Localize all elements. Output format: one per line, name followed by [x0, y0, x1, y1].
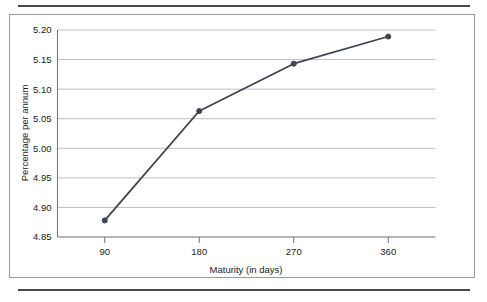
data-series-group [105, 37, 389, 221]
y-axis-title: Percentage per annum [19, 85, 30, 182]
gridlines-group [58, 30, 436, 207]
x-tick-marks-group [105, 237, 389, 243]
x-axis-title: Maturity (in days) [210, 264, 283, 275]
y-tick-label: 5.05 [33, 113, 52, 124]
x-tick-label: 90 [99, 246, 110, 257]
y-tick-label: 5.00 [33, 143, 52, 154]
axes-group [58, 30, 436, 237]
y-tick-label: 5.20 [33, 24, 52, 35]
y-tick-label: 4.90 [33, 202, 52, 213]
y-tick-labels-group: 4.854.904.955.005.055.105.155.20 [33, 24, 52, 242]
x-tick-label: 360 [380, 246, 396, 257]
data-point-marker [197, 108, 202, 113]
x-tick-label: 180 [191, 246, 207, 257]
y-tick-label: 4.95 [33, 172, 52, 183]
line-chart: 4.854.904.955.005.055.105.155.20 9018027… [0, 0, 487, 302]
x-tick-labels-group: 90180270360 [99, 246, 396, 257]
series-line [105, 37, 389, 221]
plot-wrapper: 4.854.904.955.005.055.105.155.20 9018027… [0, 0, 487, 302]
data-point-marker [386, 34, 391, 39]
x-tick-label: 270 [286, 246, 302, 257]
data-markers-group [102, 34, 391, 223]
y-tick-label: 5.10 [33, 84, 52, 95]
y-tick-label: 4.85 [33, 231, 52, 242]
data-point-marker [102, 218, 107, 223]
data-point-marker [291, 61, 296, 66]
figure-container: 4.854.904.955.005.055.105.155.20 9018027… [0, 0, 487, 302]
y-tick-label: 5.15 [33, 54, 52, 65]
